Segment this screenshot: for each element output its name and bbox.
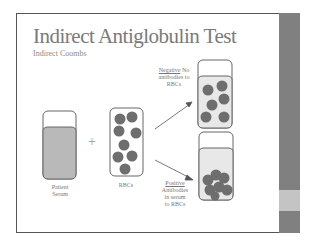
serum-fill: [43, 127, 76, 179]
arrow-to-positive: [155, 160, 193, 180]
rbc-label: RBCs: [106, 182, 146, 189]
patient-serum-tube: [43, 111, 76, 179]
patient-serum-label: Patient Serum: [40, 184, 80, 198]
rbc-tube: [110, 108, 143, 176]
negative-no: No: [180, 67, 189, 73]
positive-line2: Antibodies: [152, 187, 198, 194]
positive-label: Positive Antibodies in serum to RBCs: [152, 180, 198, 208]
arrow-to-negative: [155, 102, 192, 129]
positive-result-tube: [199, 132, 233, 201]
plus-sign: +: [88, 134, 96, 150]
negative-line2: antibodies to: [148, 74, 200, 81]
serum-label-line2: Serum: [40, 191, 80, 198]
serum-label-line1: Patient: [40, 184, 80, 191]
negative-line1: Negative No: [148, 67, 200, 74]
positive-line4: to RBCs: [152, 201, 198, 208]
negative-result-tube: [198, 60, 232, 128]
positive-heading: Positive: [152, 180, 198, 187]
negative-heading: Negative: [159, 67, 181, 73]
negative-line3: RBCs: [148, 81, 200, 88]
negative-label: Negative No antibodies to RBCs: [148, 67, 200, 88]
positive-line3: in serum: [152, 194, 198, 201]
